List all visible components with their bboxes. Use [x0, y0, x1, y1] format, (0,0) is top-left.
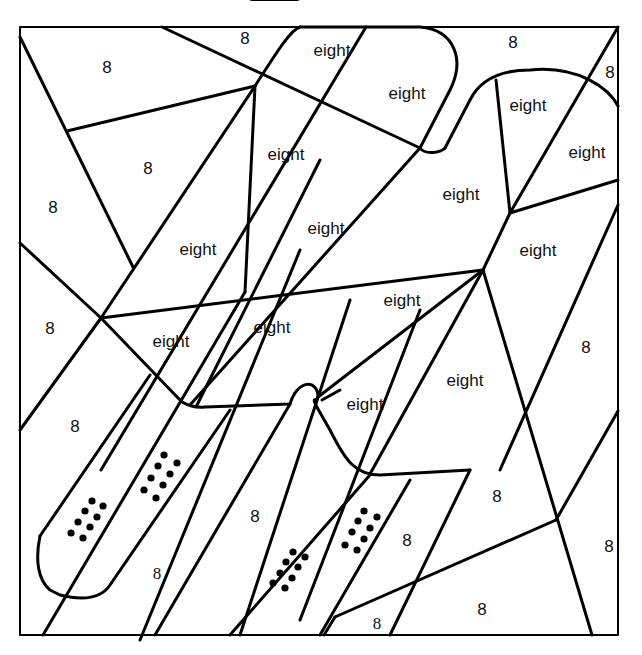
region-label-digit: 8	[492, 488, 501, 505]
region-label-word: eight	[389, 85, 426, 102]
region-label-word: eight	[347, 396, 384, 413]
region-label-digit: 8	[402, 532, 411, 549]
page-border	[20, 27, 618, 635]
region-label-word: eight	[254, 319, 291, 336]
dots-center	[269, 548, 308, 591]
region-label-digit: 8	[70, 418, 79, 435]
region-label-digit: 8	[143, 160, 152, 177]
region-label-word: eight	[520, 242, 557, 259]
dot-clusters	[67, 451, 380, 591]
region-label-word: eight	[447, 372, 484, 389]
region-label-word: eight	[153, 333, 190, 350]
region-label-digit: 8	[604, 538, 613, 555]
region-label-digit: 8	[373, 615, 382, 632]
region-label-digit: 8	[477, 601, 486, 618]
region-label-word: eight	[569, 144, 606, 161]
region-label-digit: 8	[102, 59, 111, 76]
region-label-digit: 8	[48, 199, 57, 216]
region-label-word: eight	[384, 292, 421, 309]
dots-center-right	[341, 507, 380, 553]
region-label-word: eight	[314, 42, 351, 59]
region-label-digit: 8	[581, 339, 590, 356]
region-label-digit: 8	[508, 34, 517, 51]
region-label-digit: 8	[250, 508, 259, 525]
region-label-word: eight	[308, 220, 345, 237]
region-label-digit: 8	[45, 320, 54, 337]
region-label-digit: 8	[240, 30, 249, 47]
region-label-digit: 8	[605, 64, 614, 81]
region-label-word: eight	[510, 97, 547, 114]
region-label-word: eight	[268, 146, 305, 163]
region-label-word: eight	[443, 186, 480, 203]
region-label-digit: 8	[153, 565, 162, 582]
region-label-word: eight	[180, 241, 217, 258]
